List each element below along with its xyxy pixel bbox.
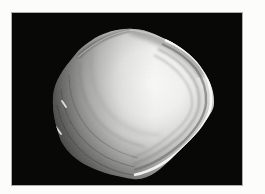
clam-shell-image [12, 13, 242, 185]
page-background [0, 0, 265, 194]
photo-frame [12, 13, 242, 185]
